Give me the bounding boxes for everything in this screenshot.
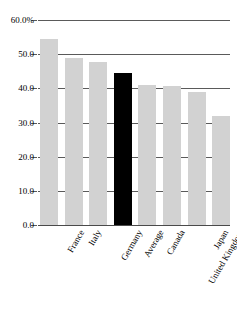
- y-axis-label-4: 20.0: [0, 153, 34, 162]
- bar-united-states: [212, 116, 230, 225]
- bar-average: [114, 73, 132, 225]
- x-axis: FranceItalyGermanyAverageCanadaUnited Ki…: [38, 226, 237, 314]
- x-axis-label-italy: Italy: [86, 228, 103, 247]
- y-axis-label-0: 60.0%: [0, 16, 34, 25]
- y-axis-label-5: 10.0: [0, 187, 34, 196]
- plot-area: [38, 20, 230, 225]
- bar-japan: [188, 92, 206, 225]
- x-axis-label-average: Average: [142, 228, 166, 259]
- y-axis-label-3: 30.0: [0, 119, 34, 128]
- bar-germany: [89, 62, 107, 225]
- bar-united-kingdom: [163, 86, 181, 225]
- x-axis-label-germany: Germany: [119, 228, 144, 262]
- bar-chart: 60.0%50.040.030.020.010.00.0 FranceItaly…: [0, 0, 237, 314]
- y-axis-label-6: 0.0: [0, 221, 34, 230]
- x-axis-label-canada: Canada: [165, 228, 187, 256]
- y-axis-label-2: 40.0: [0, 84, 34, 93]
- gridline-60: [38, 20, 230, 21]
- gridline-50: [38, 54, 230, 55]
- bar-italy: [65, 58, 83, 225]
- bar-france: [40, 39, 58, 225]
- y-axis-label-1: 50.0: [0, 50, 34, 59]
- x-axis-label-france: France: [65, 228, 86, 254]
- bar-canada: [138, 85, 156, 225]
